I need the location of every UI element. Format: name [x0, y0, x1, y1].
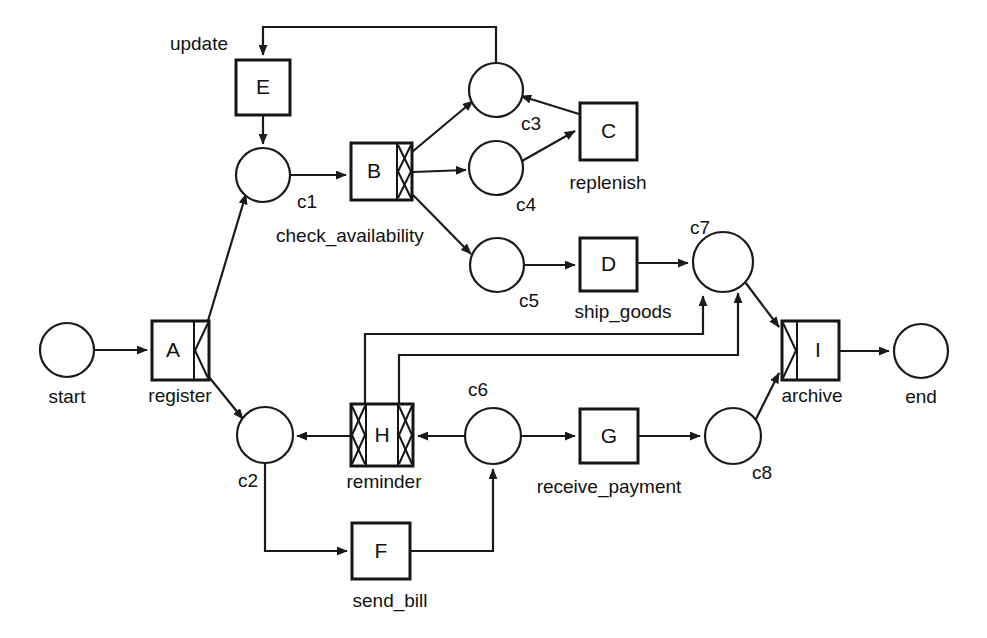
arc-A-to-c2	[209, 377, 243, 419]
transition-A[interactable]: Aregister	[148, 321, 212, 406]
arc-A-to-c1	[207, 194, 246, 324]
place-label-c4: c4	[516, 194, 537, 215]
transition-C[interactable]: Creplenish	[569, 103, 646, 193]
arc-c8-to-I	[755, 373, 779, 421]
diagram-canvas: startc1c2c3c4c5c6c7c8end AregisterBcheck…	[0, 0, 987, 638]
transition-label-E: update	[170, 33, 228, 54]
transition-label-A: register	[148, 385, 212, 406]
transition-D[interactable]: Dship_goods	[574, 238, 671, 323]
transition-label-H: reminder	[347, 471, 423, 492]
transition-label-F: send_bill	[353, 590, 428, 612]
arc-B-to-c3	[412, 101, 473, 152]
place-c6[interactable]: c6	[465, 379, 521, 464]
arc-line	[755, 373, 779, 421]
arc-H-to-c7	[399, 293, 738, 404]
arc-line	[399, 293, 738, 404]
transition-letter-D: D	[601, 252, 616, 275]
place-label-end: end	[905, 386, 937, 407]
place-circle-c1[interactable]	[236, 148, 290, 202]
transition-label-I: archive	[781, 385, 842, 406]
place-circle-c2[interactable]	[237, 407, 293, 463]
transition-E[interactable]: Eupdate	[170, 33, 290, 115]
transition-F[interactable]: Fsend_bill	[352, 523, 428, 612]
transition-letter-F: F	[375, 539, 388, 562]
transition-box-I[interactable]	[782, 321, 839, 380]
arc-line	[521, 96, 579, 114]
transition-letter-B: B	[367, 159, 381, 182]
transition-label-C: replenish	[569, 172, 646, 193]
arc-c2-to-F	[265, 463, 347, 551]
place-c4[interactable]: c4	[469, 141, 537, 215]
place-label-c3: c3	[521, 113, 541, 134]
transition-box-A[interactable]	[152, 321, 209, 380]
transition-letter-E: E	[256, 75, 270, 98]
place-c1[interactable]: c1	[236, 148, 317, 212]
transition-G[interactable]: Greceive_payment	[537, 409, 682, 498]
place-end[interactable]: end	[894, 324, 948, 407]
place-label-c6: c6	[468, 379, 488, 400]
arc-line	[745, 282, 779, 327]
place-layer: startc1c2c3c4c5c6c7c8end	[40, 63, 948, 491]
arc-B-to-c4	[413, 170, 466, 172]
place-circle-c4[interactable]	[469, 141, 523, 195]
place-circle-c5[interactable]	[470, 238, 524, 292]
arc-line	[265, 463, 347, 551]
transition-I[interactable]: Iarchive	[781, 321, 842, 406]
transition-letter-I: I	[815, 338, 821, 361]
place-label-c7: c7	[690, 217, 710, 238]
place-circle-c6[interactable]	[465, 408, 521, 464]
transition-box-B[interactable]	[351, 143, 412, 200]
transition-letter-G: G	[601, 424, 617, 447]
transition-letter-H: H	[374, 423, 389, 446]
arc-line	[412, 101, 473, 152]
place-circle-c7[interactable]	[693, 232, 753, 292]
arc-line	[207, 194, 246, 324]
place-circle-c8[interactable]	[705, 408, 761, 464]
place-label-c8: c8	[752, 462, 772, 483]
transition-letter-A: A	[166, 338, 180, 361]
arc-line	[410, 469, 493, 551]
place-label-start: start	[49, 386, 87, 407]
arc-C-to-c3	[521, 96, 579, 114]
transition-label-G: receive_payment	[537, 476, 682, 498]
place-circle-end[interactable]	[894, 324, 948, 378]
arc-line	[263, 27, 496, 63]
arc-line	[209, 377, 243, 419]
arc-line	[413, 170, 466, 172]
transition-label-B: check_availability	[276, 225, 424, 247]
place-label-c2: c2	[238, 470, 258, 491]
arc-c7-to-I	[745, 282, 779, 327]
place-c5[interactable]: c5	[470, 238, 539, 311]
place-label-c5: c5	[519, 290, 539, 311]
place-circle-c3[interactable]	[469, 63, 523, 117]
transition-H[interactable]: Hreminder	[347, 404, 423, 492]
arc-c4-to-C	[522, 131, 575, 161]
place-circle-start[interactable]	[40, 323, 94, 377]
petri-net-svg: startc1c2c3c4c5c6c7c8end AregisterBcheck…	[0, 0, 987, 638]
place-c7[interactable]: c7	[690, 217, 753, 292]
place-c8[interactable]: c8	[705, 408, 772, 483]
arc-line	[522, 131, 575, 161]
transition-label-D: ship_goods	[574, 301, 671, 323]
place-start[interactable]: start	[40, 323, 94, 407]
arc-c3-to-E	[263, 27, 496, 63]
transition-letter-C: C	[601, 119, 616, 142]
place-label-c1: c1	[297, 191, 317, 212]
arc-F-to-c6	[410, 469, 493, 551]
